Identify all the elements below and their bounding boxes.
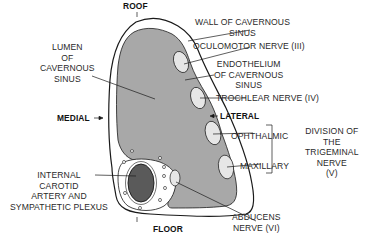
label-abducens: ABDUCENS NERVE (VI) xyxy=(232,212,281,233)
label-trigeminal-division: DIVISION OF THE TRIGEMINAL NERVE (V) xyxy=(305,126,359,179)
label-trochlear: TROCHLEAR NERVE (IV) xyxy=(216,93,319,104)
label-floor: FLOOR xyxy=(153,224,183,235)
label-wall: WALL OF CAVERNOUS SINUS xyxy=(195,17,290,38)
label-medial: MEDIAL xyxy=(57,113,90,124)
label-endothelium: ENDOTHELIUM OF CAVERNOUS SINUS xyxy=(214,59,283,91)
label-roof: ROOF xyxy=(123,1,148,12)
label-maxillary: MAXILLARY xyxy=(240,161,289,172)
label-carotid: INTERNAL CAROTID ARTERY AND SYMPATHETIC … xyxy=(10,170,108,212)
label-oculomotor: OCULOMOTOR NERVE (III) xyxy=(193,41,305,52)
label-ophthalmic: OPHTHALMIC xyxy=(231,131,288,142)
label-lumen: LUMEN OF CAVERNOUS SINUS xyxy=(40,42,95,84)
label-lateral: LATERAL xyxy=(220,111,259,122)
internal-carotid-artery xyxy=(128,164,154,202)
